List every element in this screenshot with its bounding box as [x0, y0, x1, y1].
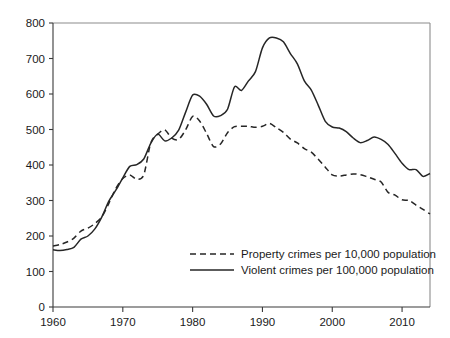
y-axis-tick-labels: 0100200300400500600700800 — [26, 17, 45, 313]
x-tick-label-1960: 1960 — [40, 316, 66, 328]
y-tick-label-300: 300 — [26, 195, 45, 207]
x-tick-label-2000: 2000 — [319, 316, 345, 328]
x-tick-label-1980: 1980 — [180, 316, 206, 328]
legend-label-property-crimes: Property crimes per 10,000 population — [241, 248, 436, 260]
y-tick-label-0: 0 — [39, 301, 45, 313]
y-tick-label-200: 200 — [26, 230, 45, 242]
x-axis-tick-labels: 196019701980199020002010 — [40, 316, 415, 328]
y-tick-label-100: 100 — [26, 266, 45, 278]
crime-rate-line-chart: 0100200300400500600700800 19601970198019… — [0, 0, 450, 338]
series-line-violent-crimes — [53, 37, 430, 250]
legend-label-violent-crimes: Violent crimes per 100,000 population — [241, 264, 434, 276]
y-tick-label-600: 600 — [26, 88, 45, 100]
y-axis-ticks — [49, 23, 53, 307]
x-tick-label-1990: 1990 — [250, 316, 276, 328]
y-tick-label-500: 500 — [26, 124, 45, 136]
chart-legend: Property crimes per 10,000 populationVio… — [190, 248, 436, 276]
x-axis-ticks — [53, 307, 402, 312]
y-tick-label-800: 800 — [26, 17, 45, 29]
series-line-property-crimes — [53, 116, 430, 246]
x-tick-label-1970: 1970 — [110, 316, 136, 328]
x-tick-label-2010: 2010 — [389, 316, 415, 328]
data-series-layer — [53, 37, 430, 250]
y-tick-label-700: 700 — [26, 53, 45, 65]
y-tick-label-400: 400 — [26, 159, 45, 171]
chart-canvas: 0100200300400500600700800 19601970198019… — [0, 0, 450, 338]
